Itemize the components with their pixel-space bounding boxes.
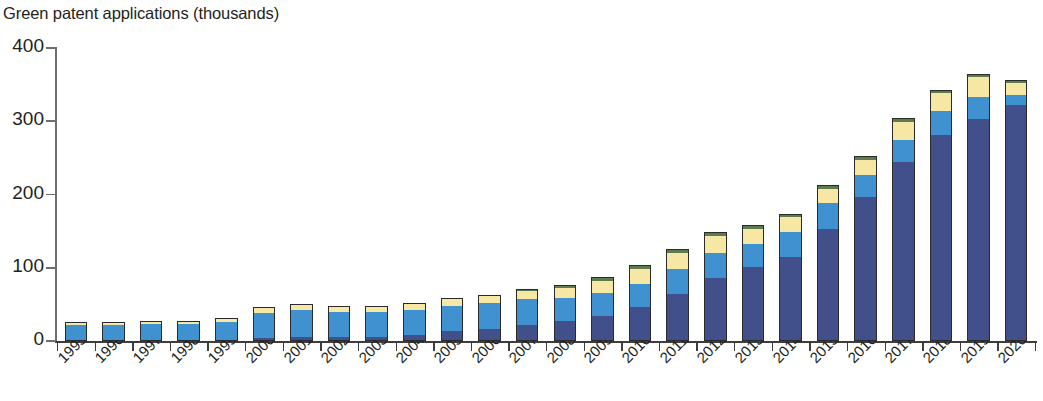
- bar-segment-segment-2-light-blue: [629, 284, 652, 307]
- y-axis-tick: [46, 47, 56, 49]
- bar-segment-segment-1-navy: [554, 321, 577, 342]
- bar-segment-segment-1-navy: [516, 325, 539, 341]
- bar-segment-segment-4-green: [591, 277, 614, 281]
- bar-segment-segment-2-light-blue: [65, 325, 88, 340]
- bar-segment-segment-3-yellow: [102, 323, 125, 325]
- bar-segment-segment-4-green: [1005, 80, 1028, 84]
- bar-segment-segment-2-light-blue: [704, 253, 727, 278]
- bar-column: [441, 298, 464, 341]
- bar-segment-segment-2-light-blue: [516, 299, 539, 325]
- bar-column: [1005, 80, 1028, 342]
- bar-segment-segment-3-yellow: [892, 122, 915, 140]
- bar-segment-segment-4-green: [967, 74, 990, 78]
- bar-segment-segment-1-navy: [892, 162, 915, 341]
- bar-segment-segment-3-yellow: [365, 307, 388, 312]
- bar-segment-segment-4-green: [365, 306, 388, 307]
- bar-segment-segment-2-light-blue: [591, 293, 614, 316]
- bar-segment-segment-1-navy: [328, 337, 351, 341]
- bar-segment-segment-1-navy: [742, 267, 765, 341]
- bar-column: [65, 323, 88, 341]
- bar-segment-segment-4-green: [554, 285, 577, 288]
- bar-column: [177, 322, 200, 341]
- bar-segment-segment-3-yellow: [516, 291, 539, 299]
- bar-segment-segment-4-green: [102, 322, 125, 323]
- bar-column: [478, 295, 501, 341]
- bar-segment-segment-4-green: [666, 249, 689, 253]
- bar-column: [215, 319, 238, 341]
- bar-segment-segment-4-green: [328, 306, 351, 307]
- bar-segment-segment-3-yellow: [177, 322, 200, 324]
- bar-segment-segment-1-navy: [290, 337, 313, 341]
- y-axis-tick-label: 100: [0, 255, 44, 277]
- bar-column: [742, 225, 765, 341]
- bar-segment-segment-2-light-blue: [441, 306, 464, 332]
- bar-segment-segment-1-navy: [779, 257, 802, 341]
- bar-segment-segment-4-green: [930, 90, 953, 94]
- bar-column: [854, 156, 877, 341]
- green-patent-applications-chart: Green patent applications (thousands) 01…: [0, 0, 1043, 401]
- bar-segment-segment-4-green: [854, 156, 877, 160]
- bar-segment-segment-3-yellow: [290, 305, 313, 310]
- bar-segment-segment-2-light-blue: [779, 232, 802, 257]
- chart-title: Green patent applications (thousands): [3, 4, 279, 23]
- bar-segment-segment-2-light-blue: [328, 312, 351, 337]
- bar-segment-segment-2-light-blue: [215, 322, 238, 340]
- bar-segment-segment-4-green: [742, 225, 765, 229]
- bar-segment-segment-3-yellow: [140, 322, 163, 324]
- bar-column: [554, 285, 577, 341]
- x-axis-tick: [1035, 342, 1036, 351]
- bar-column: [930, 90, 953, 341]
- bar-segment-segment-1-navy: [478, 329, 501, 341]
- bar-column: [591, 277, 614, 341]
- bar-segment-segment-4-green: [478, 295, 501, 296]
- bar-segment-segment-3-yellow: [215, 319, 238, 322]
- bar-segment-segment-2-light-blue: [365, 312, 388, 337]
- bar-segment-segment-3-yellow: [629, 269, 652, 284]
- bar-segment-segment-2-light-blue: [892, 140, 915, 162]
- bar-segment-segment-3-yellow: [1005, 83, 1028, 95]
- bar-segment-segment-2-light-blue: [478, 303, 501, 329]
- bar-segment-segment-2-light-blue: [967, 97, 990, 119]
- bar-column: [892, 118, 915, 341]
- bar-segment-segment-4-green: [140, 321, 163, 322]
- bar-segment-segment-4-green: [65, 322, 88, 323]
- bar-column: [328, 307, 351, 341]
- y-axis-tick-label: 0: [0, 328, 44, 350]
- bar-segment-segment-1-navy: [253, 338, 276, 341]
- bar-segment-segment-2-light-blue: [666, 269, 689, 294]
- bar-segment-segment-1-navy: [704, 278, 727, 341]
- bar-column: [967, 74, 990, 341]
- y-axis-tick-label: 400: [0, 35, 44, 57]
- bar-segment-segment-2-light-blue: [102, 325, 125, 340]
- bar-segment-segment-1-navy: [930, 135, 953, 341]
- bar-column: [516, 289, 539, 341]
- bar-segment-segment-2-light-blue: [554, 298, 577, 321]
- bar-column: [253, 307, 276, 341]
- bar-segment-segment-3-yellow: [65, 323, 88, 324]
- bar-segment-segment-4-green: [403, 303, 426, 304]
- bar-segment-segment-1-navy: [817, 229, 840, 341]
- bar-segment-segment-1-navy: [967, 119, 990, 341]
- bar-segment-segment-3-yellow: [704, 236, 727, 253]
- bar-column: [629, 265, 652, 341]
- bar-column: [365, 306, 388, 341]
- bar-segment-segment-3-yellow: [854, 160, 877, 175]
- bar-segment-segment-4-green: [177, 321, 200, 322]
- bar-segment-segment-2-light-blue: [930, 111, 953, 135]
- bar-segment-segment-1-navy: [403, 335, 426, 341]
- bar-segment-segment-4-green: [704, 232, 727, 236]
- bar-segment-segment-2-light-blue: [817, 203, 840, 229]
- bar-segment-segment-4-green: [290, 304, 313, 305]
- y-axis-tick: [46, 267, 56, 269]
- bar-segment-segment-2-light-blue: [742, 244, 765, 267]
- plot-area: [57, 48, 1035, 341]
- bar-segment-segment-1-navy: [215, 340, 238, 341]
- bar-segment-segment-1-navy: [591, 316, 614, 341]
- bar-segment-segment-3-yellow: [328, 307, 351, 312]
- bar-column: [140, 322, 163, 341]
- bar-segment-segment-4-green: [817, 185, 840, 189]
- bar-segment-segment-1-navy: [666, 294, 689, 341]
- y-axis-tick-label: 200: [0, 182, 44, 204]
- bar-segment-segment-4-green: [779, 214, 802, 218]
- bar-segment-segment-2-light-blue: [1005, 95, 1028, 105]
